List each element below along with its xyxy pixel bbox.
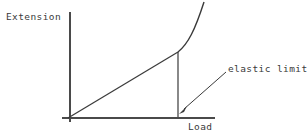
elastic-limit-annotation-label: elastic limit [228, 63, 308, 74]
load-extension-graph: Extension Load elastic limit [0, 0, 308, 135]
x-axis-label: Load [188, 121, 212, 132]
elastic-limit-arrow-head [179, 106, 189, 114]
plastic-region-curve [178, 2, 204, 52]
elastic-region-line [68, 52, 178, 118]
elastic-limit-arrow-shaft [184, 72, 226, 109]
y-axis-label: Extension [6, 11, 61, 22]
